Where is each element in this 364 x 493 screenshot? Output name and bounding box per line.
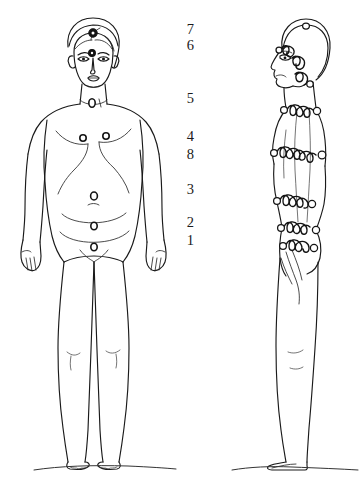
pupil-right [102,58,105,61]
side-back-lower [316,166,326,230]
coil-node-jaw [307,81,313,87]
side-knee [288,350,303,353]
knee-crease-left [70,356,71,370]
coil-node-throat-front [281,107,288,114]
finger-left-3 [34,257,36,270]
sacral-chakra-marker [91,222,97,230]
knee-crease-right [116,354,117,368]
chakra-number-6: 6 [168,38,194,52]
leg-inner-right [94,262,103,462]
coil-node-sacral-front [278,225,285,232]
side-abdomen-front [274,164,282,228]
thumb-left [22,251,31,253]
side-pupil [284,57,287,60]
root-chakra-marker [91,243,97,251]
side-coil-temple [292,56,305,69]
coil-node-sacral-back [312,226,319,233]
coil-node-brow-left [276,47,282,53]
knee-left [67,352,80,355]
eyebrow-left [78,53,89,55]
shoulder-left [28,104,80,154]
side-view-figure [232,19,358,470]
side-leg-back [307,262,318,462]
nose [91,58,96,74]
chakra-number-7: 7 [168,22,194,36]
side-foot [268,462,308,470]
coil-node-navel-front [274,198,281,205]
shoulder-right [107,104,159,154]
side-coil-band-heart [271,147,326,162]
side-neck-front [284,88,286,108]
third-eye-core [91,52,93,54]
side-coil-band-sacral [278,222,320,234]
ribcage-left [58,144,88,194]
chakra-number-8: 8 [168,147,194,161]
side-hair-outline [283,25,328,77]
side-inner-thigh-1 [286,252,299,304]
leg-outer-left [58,262,68,462]
leg-outer-right [119,262,129,462]
pupil-left [82,58,85,61]
side-coil-band-throat [281,105,321,117]
crown-chakra-core [92,32,95,35]
side-calf-line [290,367,303,369]
chakra-diagram-page: 7 6 5 4 8 3 2 1 [0,0,364,493]
throat-chakra-marker [89,99,95,107]
hair-strand-left [75,40,92,49]
torso-side-left [44,120,64,262]
finger-right-2 [155,258,157,271]
heart-chakra-marker-left [80,135,86,141]
heart-chakra-marker-right [103,133,109,139]
coil-node-throat-back [313,107,320,114]
front-view-figure [21,18,176,470]
side-inner-thigh-2 [292,250,302,280]
side-leg-front [276,258,286,462]
finger-left-2 [30,258,32,271]
arm-outer-left [23,154,28,240]
side-neck-back [313,82,316,108]
chakra-number-scale: 7 6 5 4 8 3 2 1 [160,0,194,493]
side-lips [276,75,286,77]
coil-node-navel-back [308,200,315,207]
ribcage-right [99,142,129,193]
throat-mark-tick [99,99,101,107]
coil-node-root-front [280,243,287,250]
side-crown-chakra-marker [303,23,310,29]
pelvic-curve [60,231,129,242]
chakra-number-5: 5 [168,91,194,105]
side-coil-jaw [295,72,313,87]
solar-plexus-chakra-marker [91,192,98,200]
chakra-number-1: 1 [168,233,194,247]
chakra-number-3: 3 [168,182,194,196]
torso-side-right [123,120,143,262]
coil-node-heart-front [271,150,278,157]
knee-right [106,350,120,353]
chakra-number-4: 4 [168,129,194,143]
side-coil-band-navel [274,195,316,208]
coil-node-root-back [310,244,317,251]
leg-inner-left [85,262,94,462]
navel-crease [88,204,99,206]
chakra-number-2: 2 [168,215,194,229]
lower-abdomen-curve [62,213,126,223]
eyebrow-right [98,53,109,55]
side-profile-face [271,48,293,88]
finger-right-3 [151,257,153,270]
side-coil-band-root [280,240,318,252]
coil-node-heart-back [318,151,326,159]
